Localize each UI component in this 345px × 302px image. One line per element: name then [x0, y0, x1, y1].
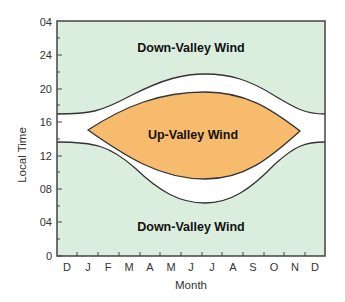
- y-axis-labels: 0 04 08 12 16 20 24 04: [40, 16, 52, 262]
- x-tick-label: S: [249, 261, 256, 273]
- x-tick-label: D: [311, 261, 319, 273]
- y-tick-label: 20: [40, 83, 52, 95]
- y-tick-label: 0: [46, 250, 52, 262]
- x-tick-label: O: [270, 261, 279, 273]
- x-tick-label: A: [229, 261, 237, 273]
- x-tick-label: J: [85, 261, 91, 273]
- x-tick-label: J: [188, 261, 194, 273]
- x-tick-label: J: [209, 261, 215, 273]
- down-valley-wind-label-upper: Down-Valley Wind: [137, 41, 245, 55]
- x-tick-label: M: [124, 261, 133, 273]
- x-axis-labels: D J F M A M J J A S O N D: [63, 261, 319, 273]
- y-tick-label: 16: [40, 116, 52, 128]
- y-tick-label: 04: [40, 16, 52, 28]
- x-tick-label: N: [291, 261, 299, 273]
- x-axis-title: Month: [175, 279, 207, 291]
- up-valley-wind-label: Up-Valley Wind: [148, 128, 238, 142]
- x-tick-label: A: [146, 261, 154, 273]
- y-tick-label: 12: [40, 150, 52, 162]
- y-axis-title: Local Time: [16, 127, 28, 183]
- x-tick-label: F: [105, 261, 112, 273]
- y-tick-label: 24: [40, 49, 52, 61]
- y-tick-label: 04: [40, 216, 52, 228]
- down-valley-wind-label-lower: Down-Valley Wind: [137, 220, 245, 234]
- x-tick-label: M: [166, 261, 175, 273]
- y-tick-label: 08: [40, 183, 52, 195]
- valley-wind-diagram: 0 04 08 12 16 20 24 04 D J F M A M J J A…: [0, 0, 345, 302]
- x-tick-label: D: [63, 261, 71, 273]
